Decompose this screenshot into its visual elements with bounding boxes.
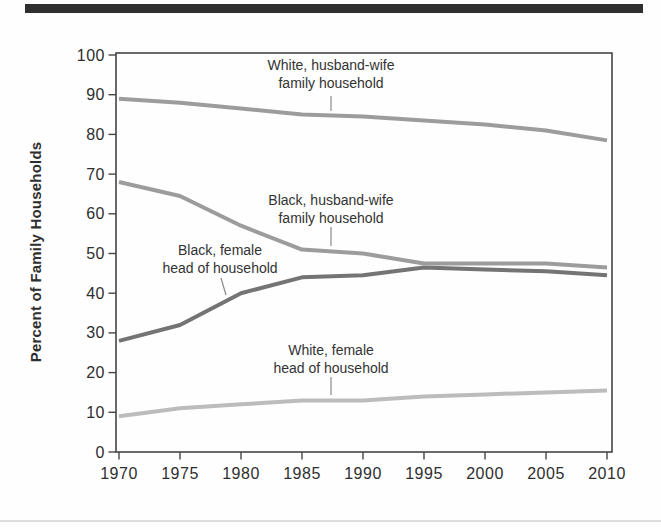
x-tick-label-1970: 1970 (100, 465, 138, 482)
x-tick-label-1980: 1980 (222, 465, 260, 482)
y-tick-label-30: 30 (86, 324, 105, 341)
y-tick-label-60: 60 (86, 205, 105, 222)
series-label-black-husband-wife-family-household: Black, husband-wifefamily household (231, 191, 431, 227)
series-label-line: White, female (231, 341, 431, 359)
x-tick-label-2010: 2010 (588, 465, 626, 482)
page: Percent of Family Households 01020304050… (0, 0, 661, 527)
series-line-black-female-head-of-household (119, 267, 607, 340)
bottom-rule (0, 520, 661, 522)
y-tick-label-20: 20 (86, 364, 105, 381)
y-tick-label-0: 0 (96, 444, 105, 461)
series-line-white-female-head-of-household (119, 390, 607, 416)
y-tick-label-40: 40 (86, 285, 105, 302)
series-label-line: Black, husband-wife (231, 191, 431, 209)
family-households-line-chart: Percent of Family Households 01020304050… (0, 0, 661, 527)
series-label-line: family household (231, 209, 431, 227)
series-label-white-husband-wife-family-household: White, husband-wifefamily household (231, 56, 431, 92)
y-tick-label-80: 80 (86, 126, 105, 143)
series-label-line: head of household (120, 259, 320, 277)
series-leader-black-female-head-of-household (221, 278, 226, 295)
series-label-white-female-head-of-household: White, femalehead of household (231, 341, 431, 377)
series-label-black-female-head-of-household: Black, femalehead of household (120, 241, 320, 277)
series-label-line: White, husband-wife (231, 56, 431, 74)
y-tick-label-70: 70 (86, 166, 105, 183)
y-tick-label-50: 50 (86, 245, 105, 262)
x-tick-label-1995: 1995 (405, 465, 443, 482)
series-line-white-husband-wife-family-household (119, 99, 607, 141)
series-label-line: head of household (231, 359, 431, 377)
x-tick-label-2005: 2005 (527, 465, 565, 482)
x-tick-label-2000: 2000 (466, 465, 504, 482)
x-tick-label-1985: 1985 (283, 465, 321, 482)
series-label-line: Black, female (120, 241, 320, 259)
x-tick-label-1990: 1990 (344, 465, 382, 482)
y-tick-label-100: 100 (77, 47, 105, 64)
y-tick-label-10: 10 (86, 404, 105, 421)
x-tick-label-1975: 1975 (161, 465, 199, 482)
series-label-line: family household (231, 74, 431, 92)
y-tick-label-90: 90 (86, 86, 105, 103)
